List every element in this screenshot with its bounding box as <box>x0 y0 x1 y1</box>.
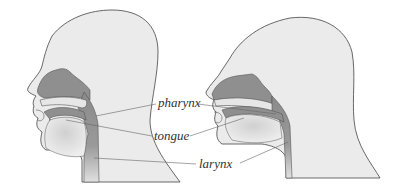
label-pharynx: pharynx <box>157 95 201 110</box>
vocal-tract-diagram: pharynx tongue larynx <box>0 0 399 192</box>
left-tongue <box>45 117 87 157</box>
larynx-leader-right <box>240 142 288 163</box>
label-tongue: tongue <box>154 128 190 143</box>
right-head <box>206 17 380 178</box>
label-larynx: larynx <box>199 156 232 171</box>
